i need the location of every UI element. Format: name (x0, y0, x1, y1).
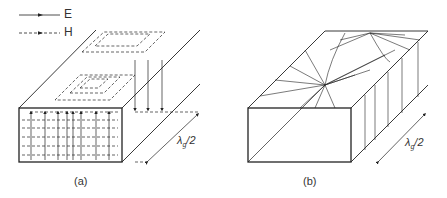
figure-b-caption: (b) (303, 175, 316, 187)
figure-a-waveguide (19, 30, 200, 162)
figure-b-waveguide (248, 31, 428, 162)
figure-b-dimension: λg/2 (405, 136, 424, 150)
figure-a-dimension: λg/2 (177, 134, 196, 148)
legend-e-label: E (64, 7, 72, 21)
legend-e-line (19, 13, 60, 16)
legend-h-line (19, 31, 60, 34)
figure-a-caption: (a) (74, 175, 87, 187)
legend-h-label: H (64, 25, 73, 39)
